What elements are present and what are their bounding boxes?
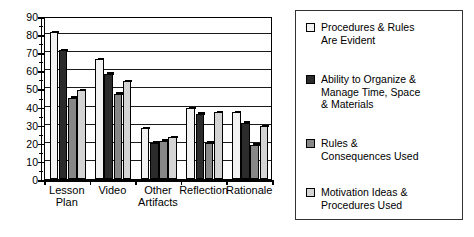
legend-item[interactable]: Procedures & Rules Are Evident [306,21,414,46]
legend-label: Rules & Consequences Used [321,137,418,162]
bar-top-shadow [116,92,123,95]
y-minor-tick [39,80,43,81]
bar-top-shadow [262,125,269,128]
bar [214,112,223,179]
y-tick-20 [38,144,44,146]
y-tick-label: 40 [26,102,38,113]
y-minor-tick [39,117,43,118]
bar [186,108,195,179]
y-minor-tick [39,135,43,136]
y-tick-label: 70 [26,48,38,59]
plot-area [44,17,272,180]
bar-top-shadow [162,139,169,142]
y-tick-30 [38,126,44,128]
bar-group [227,18,273,179]
bar-top-shadow [253,143,260,146]
y-minor-tick [39,44,43,45]
y-tick-label: 20 [26,139,38,150]
bar [114,94,123,179]
y-tick-60 [38,71,44,73]
x-axis [44,180,272,182]
bar-top-shadow [125,80,132,83]
bar [77,90,86,179]
legend-swatch-icon [306,139,315,148]
legend-swatch-icon [306,188,315,197]
bar-chart-figure: 0102030405060708090 Lesson PlanVideoOthe… [0,0,474,237]
y-minor-tick [39,99,43,100]
bar-top-shadow [171,136,178,139]
bar [168,137,177,179]
bar [260,126,269,179]
bar-top-shadow [143,127,150,130]
y-tick-50 [38,89,44,91]
bar [50,32,59,179]
y-tick-label: 50 [26,84,38,95]
bar-top-shadow [207,141,214,144]
bar-top-shadow [198,112,205,115]
legend-item[interactable]: Ability to Organize & Manage Time, Space… [306,73,420,111]
bar [159,141,168,179]
bar-top-shadow [107,72,114,75]
y-tick-label: 90 [26,12,38,23]
y-tick-70 [38,53,44,55]
legend-swatch-icon [306,75,315,84]
bar [232,112,241,179]
x-axis-category-label: Rationale [220,184,278,196]
y-tick-label: 80 [26,30,38,41]
bar [241,123,250,179]
y-tick-90 [38,17,44,19]
y-minor-tick [39,153,43,154]
bar-group [91,18,137,179]
legend-label: Procedures & Rules Are Evident [321,21,414,46]
bar-top-shadow [244,121,251,124]
bar-group [136,18,182,179]
bar-group [45,18,91,179]
chart-legend: Procedures & Rules Are EvidentAbility to… [295,10,463,220]
bar [150,143,159,179]
y-tick-80 [38,35,44,37]
legend-swatch-icon [306,23,315,32]
y-tick-label: 10 [26,157,38,168]
bar [196,114,205,179]
bar [205,143,214,179]
legend-item[interactable]: Motivation Ideas & Procedures Used [306,186,407,211]
bar [250,145,259,179]
bar-top-shadow [189,107,196,110]
bar-top-shadow [217,111,224,114]
bar-top-shadow [98,58,105,61]
y-minor-tick [39,26,43,27]
bar-top-shadow [153,141,160,144]
y-tick-label: 30 [26,120,38,131]
bar [123,81,132,179]
legend-item[interactable]: Rules & Consequences Used [306,137,418,162]
bar-top-shadow [71,96,78,99]
bar [141,128,150,179]
y-tick-10 [38,162,44,164]
chart-plot-region: 0102030405060708090 Lesson PlanVideoOthe… [0,0,285,237]
y-tick-label: 60 [26,66,38,77]
bar [95,59,104,179]
y-minor-tick [39,171,43,172]
legend-label: Ability to Organize & Manage Time, Space… [321,73,420,111]
legend-label: Motivation Ideas & Procedures Used [321,186,407,211]
bar-group [182,18,228,179]
bar [104,74,113,179]
bar [68,98,77,180]
bar-top-shadow [52,31,59,34]
bar-top-shadow [80,89,87,92]
bar-top-shadow [61,49,68,52]
y-tick-40 [38,108,44,110]
y-minor-tick [39,62,43,63]
bar [59,50,68,179]
bar-top-shadow [235,111,242,114]
y-axis: 0102030405060708090 [41,17,44,181]
